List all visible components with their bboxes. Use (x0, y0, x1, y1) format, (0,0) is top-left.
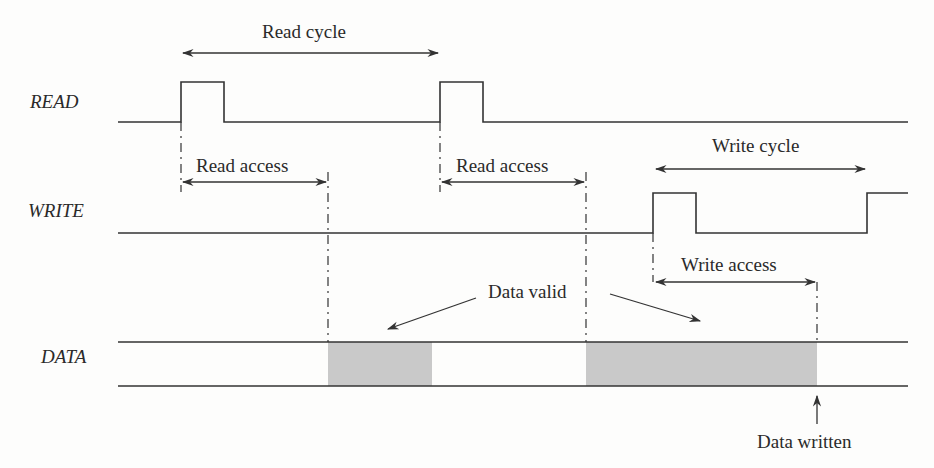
data-valid-region-1 (328, 342, 432, 386)
signal-label-read: READ (29, 91, 79, 112)
data-valid-label: Data valid (488, 281, 567, 302)
data-valid-arrow-left (388, 298, 476, 329)
read-access-label-1: Read access (196, 155, 288, 176)
data-valid-region-2 (586, 342, 817, 386)
write-cycle-label: Write cycle (712, 135, 799, 156)
timing-diagram: READ WRITE DATA Read cycle Read access R… (0, 0, 934, 468)
read-cycle-label: Read cycle (262, 21, 346, 42)
read-access-label-2: Read access (456, 155, 548, 176)
signal-label-data: DATA (40, 346, 87, 367)
data-valid-arrow-right (610, 294, 700, 321)
data-written-label: Data written (757, 431, 852, 452)
write-waveform (118, 193, 908, 233)
write-access-label: Write access (681, 254, 777, 275)
read-waveform (118, 82, 908, 122)
signal-label-write: WRITE (28, 200, 84, 221)
